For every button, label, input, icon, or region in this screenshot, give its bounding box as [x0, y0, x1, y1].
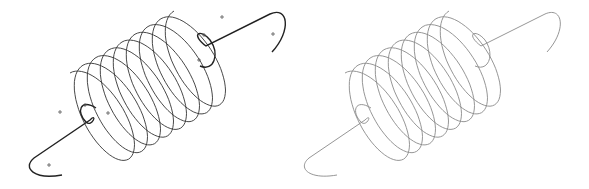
control-point-marker	[220, 15, 224, 19]
spring-left-with-control-points	[29, 11, 285, 176]
control-point-marker	[106, 111, 110, 115]
spring-hook-right	[473, 12, 561, 67]
spring-hook-left	[304, 105, 371, 177]
control-point-marker	[271, 32, 275, 36]
spring-hook-left	[29, 105, 96, 177]
control-point-marker	[58, 110, 62, 114]
spring-right-curve	[304, 11, 560, 176]
diagram-canvas: coil-spring-comparison	[0, 0, 589, 189]
control-point-marker	[47, 163, 51, 167]
spring-hook-right	[198, 12, 286, 67]
spring-diagram	[0, 0, 589, 189]
control-point-marker	[83, 103, 87, 107]
